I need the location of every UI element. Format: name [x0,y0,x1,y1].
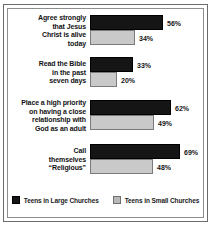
group-label-1: Agree strongly that Jesus Christ is aliv… [12,14,86,48]
group-label-3: Place a high priority on having a close … [12,99,86,133]
bar-large-2[interactable] [90,57,133,72]
bar-large-4[interactable] [90,144,180,159]
legend-item-large-churches[interactable]: Teens in Large Churches [12,196,99,204]
bar-value-small-1: 34% [135,34,153,41]
bars-1: 56% 34% [90,15,201,47]
bar-small-4[interactable] [90,159,153,174]
bar-large-3[interactable] [90,100,171,115]
group-label-line: Read the Bible [12,60,86,69]
group-label-4: Call themselves “Religious” [12,147,86,173]
legend-swatch-icon-small [113,196,121,204]
bar-row-small-2: 20% [90,72,201,87]
bar-large-1[interactable] [90,15,163,30]
group-label-line: God as an adult [12,125,86,134]
chart-frame: Agree strongly that Jesus Christ is aliv… [3,4,208,222]
group-label-line: Christ is alive [12,31,86,40]
bars-2: 33% 20% [90,57,201,89]
group-label-line: Agree strongly [12,14,86,23]
legend-label-small: Teens in Small Churches [125,197,200,204]
legend-swatch-icon-large [12,196,20,204]
group-label-line: relationship with [12,116,86,125]
bars-4: 69% 48% [90,144,201,176]
bar-row-large-1: 56% [90,15,201,30]
bar-group-2: Read the Bible in the past seven days 33… [8,57,203,89]
bar-small-1[interactable] [90,30,135,45]
chart-inner-border: Agree strongly that Jesus Christ is aliv… [7,8,204,218]
bar-row-large-4: 69% [90,144,201,159]
bar-group-3: Place a high priority on having a close … [8,100,203,132]
bar-small-2[interactable] [90,72,117,87]
plot-area: Agree strongly that Jesus Christ is aliv… [8,15,203,187]
group-label-line: in the past [12,69,86,78]
group-label-line: today [12,40,86,49]
group-label-line: that Jesus [12,22,86,31]
group-label-line: on having a close [12,107,86,116]
group-label-line: seven days [12,77,86,86]
bar-row-large-2: 33% [90,57,201,72]
bar-group-4: Call themselves “Religious” 69% 48% [8,144,203,176]
bar-row-small-3: 49% [90,115,201,130]
group-label-line: themselves [12,156,86,165]
bar-row-small-1: 34% [90,30,201,45]
bar-value-small-3: 49% [154,119,172,126]
bar-value-large-4: 69% [180,148,198,155]
group-label-line: “Religious” [12,164,86,173]
bar-group-1: Agree strongly that Jesus Christ is aliv… [8,15,203,47]
bar-value-large-1: 56% [163,19,181,26]
bar-small-3[interactable] [90,115,154,130]
bar-row-large-3: 62% [90,100,201,115]
legend-label-large: Teens in Large Churches [24,197,99,204]
bar-value-small-4: 48% [153,163,171,170]
legend-item-small-churches[interactable]: Teens in Small Churches [113,196,200,204]
bars-3: 62% 49% [90,100,201,132]
bar-row-small-4: 48% [90,159,201,174]
group-label-line: Call [12,147,86,156]
bar-value-small-2: 20% [117,76,135,83]
group-label-line: Place a high priority [12,99,86,108]
group-label-2: Read the Bible in the past seven days [12,60,86,86]
chart-legend: Teens in Large Churches Teens in Small C… [8,193,203,207]
bar-value-large-2: 33% [133,61,151,68]
bar-value-large-3: 62% [171,104,189,111]
